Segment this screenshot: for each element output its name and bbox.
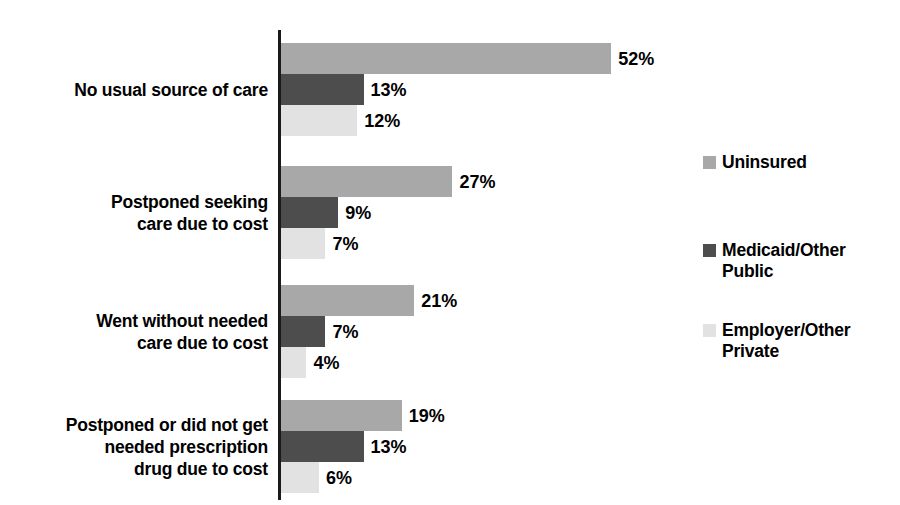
category-label: Went without needed care due to cost: [0, 310, 268, 354]
bar: [281, 74, 364, 105]
legend-swatch-icon: [703, 324, 716, 337]
category-label: No usual source of care: [0, 79, 268, 101]
bar-value-label: 19%: [402, 405, 445, 426]
bar: [281, 316, 325, 347]
bar-value-label: 7%: [325, 233, 358, 254]
legend-label: Medicaid/Other Public: [722, 240, 846, 282]
bar: [281, 166, 452, 197]
bar-group: Postponed or did not get needed prescrip…: [0, 400, 900, 493]
legend-item[interactable]: Uninsured: [703, 152, 807, 173]
bar-value-label: 4%: [306, 352, 339, 373]
legend-swatch-icon: [703, 244, 716, 257]
legend-item[interactable]: Medicaid/Other Public: [703, 240, 846, 282]
bar-value-label: 6%: [319, 467, 352, 488]
legend-swatch-icon: [703, 156, 716, 169]
bar: [281, 228, 325, 259]
bar-chart: No usual source of care52%13%12%Postpone…: [0, 0, 900, 505]
bar-value-label: 7%: [325, 321, 358, 342]
bar: [281, 105, 357, 136]
bar: [281, 347, 306, 378]
bar-value-label: 12%: [357, 110, 400, 131]
bar: [281, 43, 611, 74]
bar-value-label: 27%: [452, 171, 495, 192]
category-label: Postponed or did not get needed prescrip…: [0, 414, 268, 480]
category-label: Postponed seeking care due to cost: [0, 191, 268, 235]
bar: [281, 197, 338, 228]
bar-group: No usual source of care52%13%12%: [0, 43, 900, 136]
bar-value-label: 13%: [364, 79, 407, 100]
bar-value-label: 52%: [611, 48, 654, 69]
bar: [281, 285, 414, 316]
legend-label: Uninsured: [722, 152, 807, 173]
bar: [281, 400, 402, 431]
legend-label: Employer/Other Private: [722, 320, 850, 362]
legend-item[interactable]: Employer/Other Private: [703, 320, 850, 362]
bar-value-label: 9%: [338, 202, 371, 223]
bar: [281, 431, 364, 462]
bar: [281, 462, 319, 493]
bar-value-label: 13%: [364, 436, 407, 457]
bar-value-label: 21%: [414, 290, 457, 311]
